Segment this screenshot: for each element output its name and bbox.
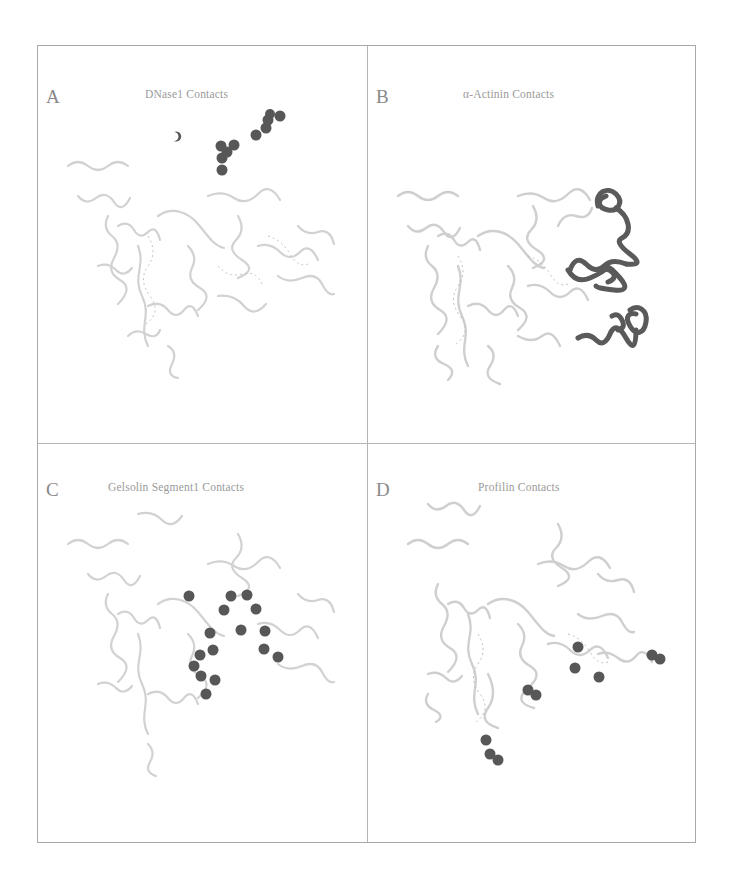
actin-ribbon-structure [38, 46, 367, 443]
panel-d-profilin: D Profilin Contacts [368, 444, 697, 841]
actin-ribbon-structure [368, 444, 697, 841]
panel-b-alpha-actinin: B α-Actinin Contacts [368, 46, 697, 443]
panel-c-gelsolin: C Gelsolin Segment1 Contacts [38, 444, 367, 841]
actin-ribbon-structure [368, 46, 697, 443]
figure-frame: A DNase1 Contacts [37, 45, 696, 843]
panel-a-dnase1: A DNase1 Contacts [38, 46, 367, 443]
actin-ribbon-structure [38, 444, 367, 841]
